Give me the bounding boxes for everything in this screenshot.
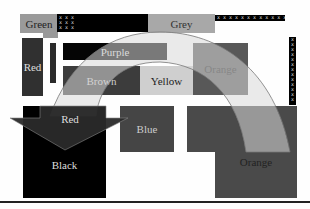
red-arrow-label: Red (61, 113, 79, 125)
red-arrow-label-wrap: Red (40, 112, 100, 126)
bottom-rule (0, 201, 310, 203)
overlay-graphics (0, 0, 310, 209)
diagram-canvas: Green x x x x x x x x x Grey x x x x x x… (0, 0, 310, 209)
